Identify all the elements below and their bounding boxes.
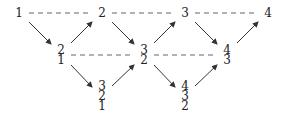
node-r1-1: 1 (13, 8, 25, 18)
node-r1-3: 3 (179, 8, 191, 18)
node-r2-2: 3 2 (138, 45, 150, 65)
node-r1-4: 4 (262, 8, 274, 18)
node-r1-2: 2 (96, 8, 108, 18)
node-r3-2: 4 3 2 (179, 81, 191, 111)
stack-value: 1 (55, 55, 67, 65)
node-r2-3: 4 3 (221, 45, 233, 65)
node-r3-1: 3 2 1 (96, 81, 108, 111)
stack-value: 3 (221, 55, 233, 65)
stack-value: 1 (96, 101, 108, 111)
stack-value: 2 (138, 55, 150, 65)
lattice-diagram: 1 2 3 4 2 1 3 2 4 3 3 2 1 4 3 2 (0, 0, 286, 119)
node-r2-1: 2 1 (55, 45, 67, 65)
stack-value: 2 (179, 101, 191, 111)
